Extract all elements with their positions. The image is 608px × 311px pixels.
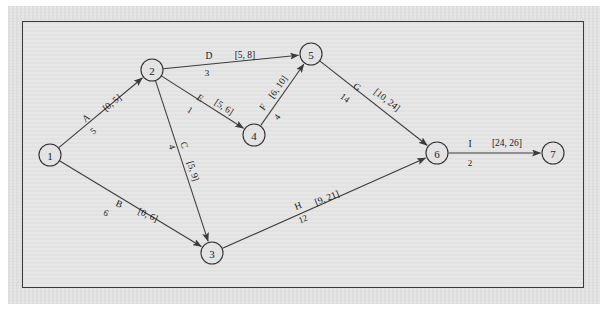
node-7[interactable]: 7	[542, 142, 564, 164]
edge-label-group-b: B[0, 6]6	[102, 198, 160, 224]
edge-interval-a: [0, 5]	[101, 93, 123, 114]
edge-label-group-f: F[6, 10]4	[257, 74, 289, 122]
edge-weight-b: 6	[102, 208, 111, 219]
edge-weight-i: 2	[468, 158, 473, 168]
edge-label-group-a: A[0, 5]5	[80, 93, 123, 137]
edge-name-c: C	[178, 140, 189, 149]
node-label-7: 7	[550, 148, 556, 160]
edge-name-d: D	[206, 51, 213, 61]
edge-weight-d: 3	[205, 68, 210, 78]
node-label-3: 3	[209, 248, 215, 260]
edge-d	[163, 55, 298, 69]
node-label-5: 5	[308, 49, 314, 61]
edge-g	[320, 61, 427, 145]
node-1[interactable]: 1	[39, 144, 61, 166]
edge-interval-i: [24, 26]	[492, 138, 522, 148]
edge-name-i: I	[468, 139, 471, 149]
edge-interval-g: [10, 24]	[372, 87, 402, 113]
edge-weight-e: 1	[185, 105, 194, 116]
edge-name-a: A	[80, 112, 92, 124]
edge-e	[162, 76, 244, 128]
node-label-1: 1	[47, 150, 53, 162]
figure-page: 1234567 A[0, 5]5B[0, 6]6C[5, 9]4D[5, 8]3…	[0, 0, 608, 311]
edge-label-group-c: C[5, 9]4	[167, 140, 201, 182]
edge-name-h: H	[293, 200, 303, 212]
node-label-2: 2	[149, 65, 155, 77]
edge-interval-h: [9, 21]	[313, 189, 340, 208]
network-diagram-canvas: 1234567 A[0, 5]5B[0, 6]6C[5, 9]4D[5, 8]3…	[0, 0, 608, 311]
node-5[interactable]: 5	[300, 43, 322, 65]
node-4[interactable]: 4	[243, 124, 265, 146]
edge-weight-g: 14	[338, 91, 352, 105]
edge-name-b: B	[114, 198, 124, 210]
edge-b	[60, 161, 201, 247]
edge-a	[59, 78, 143, 148]
edge-name-e: E	[195, 92, 205, 104]
edge-c	[156, 81, 209, 241]
node-3[interactable]: 3	[201, 242, 223, 264]
edge-weight-c: 4	[167, 143, 178, 151]
edge-interval-d: [5, 8]	[235, 50, 256, 60]
edge-label-group-h: H[9, 21]12	[293, 189, 341, 226]
edge-name-g: G	[351, 81, 363, 93]
node-2[interactable]: 2	[141, 59, 163, 81]
edge-weight-f: 4	[272, 112, 283, 122]
edge-interval-f: [6, 10]	[267, 74, 290, 100]
edge-interval-b: [0, 6]	[137, 206, 160, 224]
edge-label-group-g: G[10, 24]14	[338, 81, 402, 113]
edge-weight-h: 12	[297, 213, 309, 226]
edge-weight-a: 5	[88, 125, 98, 136]
edge-interval-e: [5, 6]	[213, 97, 236, 117]
edge-name-f: F	[257, 102, 268, 112]
node-label-6: 6	[434, 148, 440, 160]
node-label-4: 4	[251, 130, 257, 142]
node-6[interactable]: 6	[426, 142, 448, 164]
